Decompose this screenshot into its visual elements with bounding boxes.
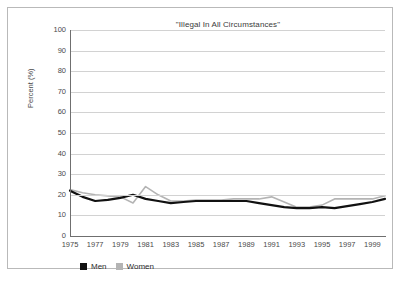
legend-swatch-icon bbox=[80, 263, 87, 270]
y-tick-label: 40 bbox=[40, 150, 66, 158]
x-axis-line bbox=[70, 236, 386, 237]
plot-area bbox=[70, 30, 385, 236]
legend-swatch-icon bbox=[116, 263, 123, 270]
gridline bbox=[70, 92, 385, 93]
y-tick-label: 50 bbox=[40, 129, 66, 137]
y-tick-label: 80 bbox=[40, 67, 66, 75]
y-tick-label: 60 bbox=[40, 108, 66, 116]
y-tick-label: 10 bbox=[40, 211, 66, 219]
legend-label: Women bbox=[127, 262, 154, 271]
legend-entry-women: Women bbox=[116, 262, 154, 271]
y-tick-label: 70 bbox=[40, 88, 66, 96]
y-tick-label: 30 bbox=[40, 170, 66, 178]
chart-frame: "Illegal In All Circumstances" 100908070… bbox=[7, 7, 393, 269]
gridline bbox=[70, 133, 385, 134]
y-axis-label: Percent (%) bbox=[26, 38, 35, 108]
gridline bbox=[70, 154, 385, 155]
y-tick-label: 90 bbox=[40, 47, 66, 55]
x-axis-ticks: 1975197719791981198319851987198919911993… bbox=[70, 240, 386, 252]
gridline bbox=[70, 30, 385, 31]
y-axis-ticks: 1009080706050403020100 bbox=[38, 30, 66, 236]
y-tick-label: 0 bbox=[40, 232, 66, 240]
gridline bbox=[70, 195, 385, 196]
y-tick-label: 20 bbox=[40, 191, 66, 199]
gridline bbox=[70, 215, 385, 216]
legend-entry-men: Men bbox=[80, 262, 107, 271]
x-tick-label: 1999 bbox=[357, 240, 387, 249]
gridline bbox=[70, 174, 385, 175]
chart-figure: "Illegal In All Circumstances" 100908070… bbox=[0, 0, 404, 283]
y-axis-line bbox=[70, 30, 71, 237]
y-tick-label: 100 bbox=[40, 26, 66, 34]
legend-label: Men bbox=[91, 262, 107, 271]
gridline bbox=[70, 51, 385, 52]
chart-legend: MenWomen bbox=[80, 260, 154, 272]
gridline bbox=[70, 71, 385, 72]
chart-title: "Illegal In All Circumstances" bbox=[70, 20, 386, 29]
series-line-women bbox=[70, 187, 385, 208]
gridline bbox=[70, 112, 385, 113]
caption-clipped bbox=[8, 275, 338, 283]
